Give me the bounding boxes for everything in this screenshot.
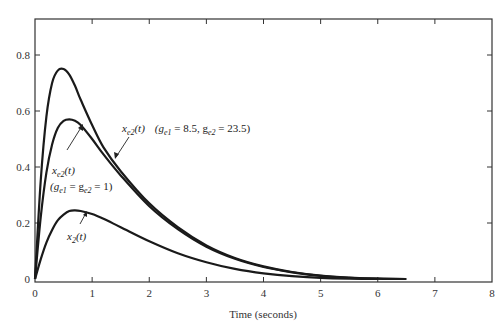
x-tick-label: 6	[375, 287, 381, 299]
annot-unit-arrow	[67, 126, 82, 150]
x-tick-label: 5	[318, 287, 324, 299]
x-tick-label: 1	[89, 287, 95, 299]
curve-xe2-unit-gain	[35, 119, 406, 279]
y-axis-ticks: 00.20.40.60.8	[16, 49, 492, 285]
y-tick-label: 0.8	[16, 49, 30, 61]
x-tick-label: 2	[147, 287, 153, 299]
y-tick-label: 0.6	[16, 105, 30, 117]
y-tick-label: 0.2	[16, 217, 30, 229]
x-tick-label: 3	[204, 287, 210, 299]
annotation-unit-gain: xe2(t) (ge1 = ge2 = 1)	[50, 124, 113, 195]
plot-frame	[35, 19, 492, 282]
annot-unit-params: (ge1 = ge2 = 1)	[50, 180, 113, 195]
annot-x2-label: x2(t)	[66, 230, 87, 245]
x-axis-ticks: 012345678	[32, 19, 495, 299]
annot-high-label: xe2(t)(ge1 = 8.5, ge2 = 23.5)	[121, 122, 251, 137]
chart: 012345678 00.20.40.60.8 Time (seconds) x…	[0, 0, 504, 331]
x-tick-label: 0	[32, 287, 38, 299]
y-tick-label: 0	[25, 273, 31, 285]
x-tick-label: 7	[432, 287, 438, 299]
curve-xe2-high-gain	[35, 69, 406, 279]
curves	[35, 69, 406, 279]
x-tick-label: 4	[261, 287, 267, 299]
annotation-x2: x2(t)	[66, 211, 87, 245]
x-axis-title: Time (seconds)	[229, 308, 297, 321]
x-tick-label: 8	[489, 287, 495, 299]
annot-unit-label: xe2(t)	[51, 164, 75, 179]
annotation-high-gain: xe2(t)(ge1 = 8.5, ge2 = 23.5)	[114, 122, 251, 159]
y-tick-label: 0.4	[16, 161, 30, 173]
